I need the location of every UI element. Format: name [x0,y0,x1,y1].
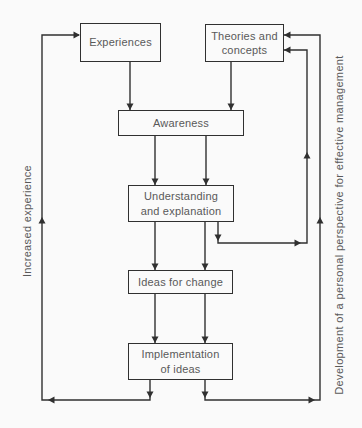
arrowhead-inner-loop-up [304,152,311,159]
right-side-label-personal-perspective: Development of a personal perspective fo… [333,55,345,394]
box-theories-and-concepts: Theories and concepts [205,24,284,62]
left-side-label-increased-experience: Increased experience [21,165,33,277]
arrowhead-inner-loop-east [295,240,302,247]
arrowhead-bottom-left-west [48,397,55,404]
box-understanding-and-explanation: Understanding and explanation [128,185,234,222]
arrowhead-bottom-right-down [202,392,209,399]
arrowhead-bottom-left-down [147,392,154,399]
arrowhead-bottom-right-east [309,397,316,404]
arrowhead-left-loop-up [39,217,46,224]
arrowhead-inner-loop-down [215,235,222,242]
box-implementation-of-ideas: Implementation of ideas [128,343,233,380]
box-awareness: Awareness [118,110,244,136]
arrowhead-into-theories-upper [284,32,291,39]
box-ideas-for-change: Ideas for change [128,270,233,294]
arrowhead-outer-right-loop-up [317,217,324,224]
arrowhead-into-theories-lower [284,47,291,54]
box-experiences: Experiences [80,23,161,62]
flowchart-diagram: Experiences Theories and concepts Awaren… [0,0,362,428]
